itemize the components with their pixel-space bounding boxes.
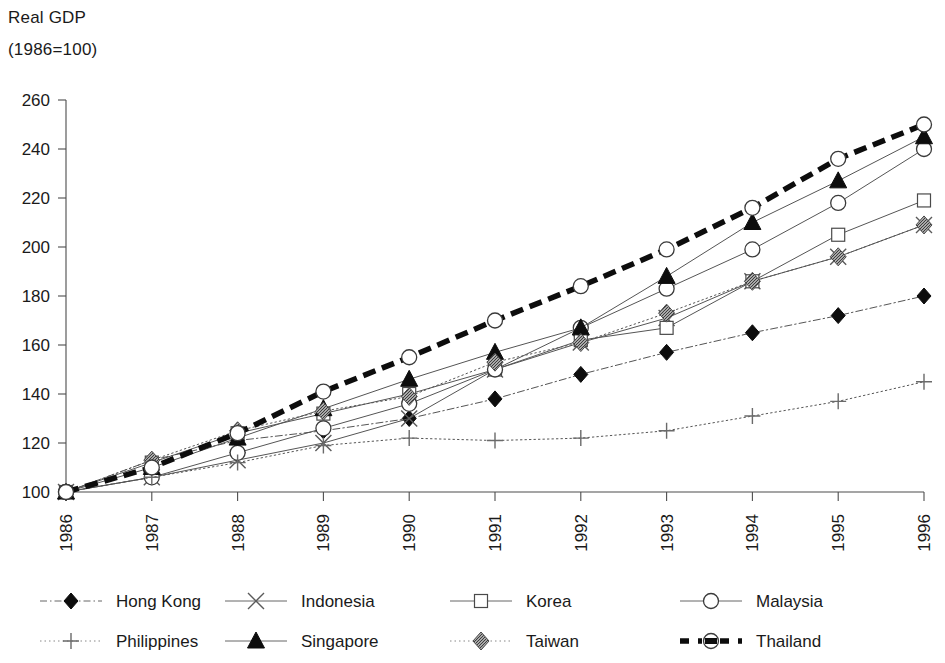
x-tick-label: 1993: [658, 514, 677, 552]
x-axis-ticks: 1986198719881989199019911992199319941995…: [57, 492, 934, 552]
data-point-marker: [745, 325, 759, 341]
chart-container: Real GDP (1986=100) 10012014016018020022…: [0, 0, 945, 663]
y-tick-label: 200: [22, 238, 50, 257]
legend-item-singapore[interactable]: Singapore: [225, 632, 379, 651]
legend-label: Thailand: [756, 632, 821, 651]
legend-label: Korea: [526, 592, 572, 611]
data-point-marker: [64, 593, 78, 609]
data-point-marker: [917, 288, 931, 304]
data-point-marker: [488, 313, 503, 328]
data-point-marker: [473, 632, 489, 650]
data-point-marker: [401, 430, 417, 446]
series-taiwan: [58, 216, 932, 501]
data-point-marker: [832, 228, 845, 241]
data-point-marker: [248, 632, 265, 648]
data-point-marker: [831, 308, 845, 324]
legend-item-korea[interactable]: Korea: [450, 592, 572, 611]
x-tick-label: 1991: [486, 514, 505, 552]
chart-legend: Hong KongIndonesiaKoreaMalaysiaPhilippin…: [40, 592, 824, 651]
data-point-marker: [402, 350, 417, 365]
data-point-marker: [316, 421, 331, 436]
data-point-marker: [918, 194, 931, 207]
y-tick-label: 120: [22, 434, 50, 453]
y-tick-label: 140: [22, 385, 50, 404]
x-tick-label: 1987: [143, 514, 162, 552]
data-point-marker: [660, 344, 674, 360]
legend-item-taiwan[interactable]: Taiwan: [450, 632, 579, 651]
data-point-marker: [659, 242, 674, 257]
data-point-marker: [59, 485, 74, 500]
data-point-marker: [830, 172, 847, 188]
series-group: [58, 117, 933, 501]
legend-label: Malaysia: [756, 592, 824, 611]
x-tick-label: 1996: [915, 514, 934, 552]
data-point-marker: [144, 460, 159, 475]
x-tick-label: 1989: [314, 514, 333, 552]
data-point-marker: [831, 151, 846, 166]
data-point-marker: [63, 633, 79, 649]
legend-label: Taiwan: [526, 632, 579, 651]
data-point-marker: [745, 200, 760, 215]
legend-item-philippines[interactable]: Philippines: [40, 632, 198, 651]
data-point-marker: [401, 370, 418, 386]
y-axis-ticks: 100120140160180200220240260: [22, 91, 66, 502]
data-point-marker: [315, 437, 331, 453]
line-chart-plot: 100120140160180200220240260 198619871988…: [0, 0, 945, 663]
legend-item-malaysia[interactable]: Malaysia: [680, 592, 824, 611]
x-tick-label: 1995: [829, 514, 848, 552]
data-point-marker: [744, 408, 760, 424]
data-point-marker: [230, 426, 245, 441]
data-point-marker: [573, 279, 588, 294]
data-point-marker: [574, 366, 588, 382]
y-tick-label: 260: [22, 91, 50, 110]
y-tick-label: 160: [22, 336, 50, 355]
data-point-marker: [658, 267, 675, 283]
data-point-marker: [660, 321, 673, 334]
y-tick-label: 220: [22, 189, 50, 208]
legend-label: Hong Kong: [116, 592, 201, 611]
legend-label: Singapore: [301, 632, 379, 651]
data-point-marker: [487, 433, 503, 449]
legend-label: Philippines: [116, 632, 198, 651]
data-point-marker: [488, 391, 502, 407]
x-tick-label: 1994: [743, 514, 762, 552]
legend-dash-center: [705, 638, 717, 644]
legend-item-thailand[interactable]: Thailand: [680, 632, 821, 651]
x-tick-label: 1990: [400, 514, 419, 552]
x-tick-label: 1988: [229, 514, 248, 552]
x-tick-label: 1986: [57, 514, 76, 552]
data-point-marker: [659, 423, 675, 439]
data-point-marker: [830, 393, 846, 409]
legend-label: Indonesia: [301, 592, 375, 611]
x-tick-label: 1992: [572, 514, 591, 552]
y-tick-label: 180: [22, 287, 50, 306]
data-point-marker: [704, 594, 719, 609]
data-point-marker: [573, 430, 589, 446]
legend-item-hong-kong[interactable]: Hong Kong: [40, 592, 201, 611]
legend-item-indonesia[interactable]: Indonesia: [225, 592, 375, 611]
data-point-marker: [316, 384, 331, 399]
data-point-marker: [475, 595, 488, 608]
y-tick-label: 240: [22, 140, 50, 159]
data-point-marker: [745, 242, 760, 257]
data-point-marker: [917, 117, 932, 132]
y-tick-label: 100: [22, 483, 50, 502]
data-point-marker: [831, 195, 846, 210]
data-point-marker: [916, 374, 932, 390]
